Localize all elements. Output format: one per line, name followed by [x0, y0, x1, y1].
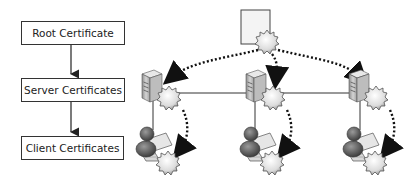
- server-node-3: [349, 70, 388, 110]
- root-certificate-node: [241, 10, 279, 54]
- server-node-1: [142, 70, 181, 110]
- server-icon: [246, 70, 266, 102]
- certificate-diagram: [0, 0, 418, 183]
- root-to-server3-arrow: [278, 50, 360, 77]
- server3-to-client3-arrow: [387, 110, 394, 150]
- root-to-server1-arrow: [172, 50, 258, 77]
- client-node-2: [240, 127, 284, 175]
- seal-icon: [156, 151, 180, 175]
- server-icon: [142, 70, 162, 102]
- server-icon: [349, 70, 369, 102]
- seal-icon: [260, 151, 284, 175]
- root-to-server2-arrow: [272, 54, 277, 78]
- server1-to-client1-arrow: [180, 110, 187, 150]
- client-node-3: [343, 127, 387, 175]
- server2-to-client2-arrow: [284, 110, 291, 150]
- server-node-2: [246, 70, 285, 110]
- seal-icon: [363, 151, 387, 175]
- client-node-1: [136, 127, 180, 175]
